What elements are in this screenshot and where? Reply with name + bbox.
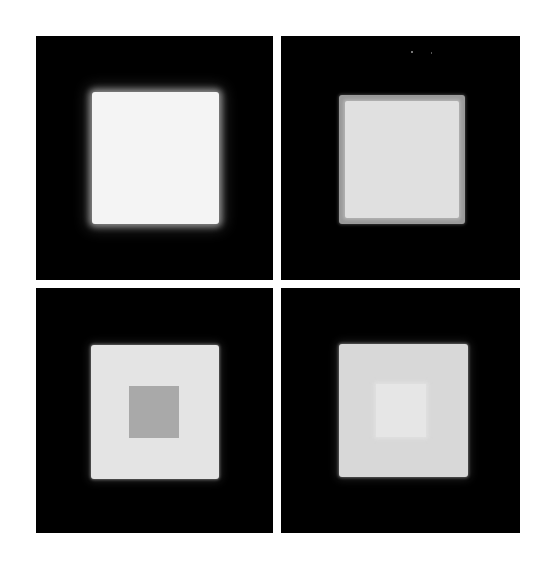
gray-square <box>339 344 468 477</box>
panel-bottom-left: light gray square containing a smaller d… <box>36 288 273 533</box>
speck-artifact <box>431 52 432 54</box>
panel-top-right: light gray square with a darker gray bor… <box>281 36 520 280</box>
speck-artifact <box>411 51 413 53</box>
panel-bottom-right: gray square containing a smaller lighter… <box>281 288 520 533</box>
inner-light-square <box>376 384 426 437</box>
light-square <box>91 345 219 479</box>
bright-square <box>92 92 219 224</box>
panel-top-left: bright white square with soft glowing ed… <box>36 36 273 280</box>
bordered-square <box>339 95 465 224</box>
inner-dark-square <box>129 386 179 438</box>
inner-light-square <box>345 101 459 218</box>
